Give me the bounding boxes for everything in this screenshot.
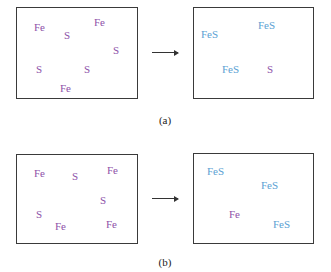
atom-label-fe: Fe	[34, 22, 45, 33]
atom-label-fe: Fe	[229, 209, 240, 220]
atom-label-s: S	[72, 171, 78, 182]
atom-label-fe: Fe	[34, 168, 45, 179]
atom-label-fe: Fe	[107, 165, 118, 176]
atom-label-s: S	[64, 30, 70, 41]
product-label-fes: FeS	[207, 166, 224, 177]
atom-label-s: S	[113, 45, 119, 56]
panel-a-products-box	[193, 7, 314, 99]
panel-a-caption: (a)	[150, 114, 180, 126]
panel-b-caption: (b)	[150, 256, 180, 268]
product-label-fes: FeS	[222, 64, 239, 75]
product-label-fes: FeS	[258, 20, 275, 31]
atom-label-s: S	[36, 64, 42, 75]
panel-a-reaction-arrow	[152, 52, 178, 53]
product-label-fes: FeS	[201, 29, 218, 40]
product-label-fes: FeS	[273, 219, 290, 230]
atom-label-s: S	[36, 209, 42, 220]
atom-label-s: S	[84, 64, 90, 75]
atom-label-fe: Fe	[106, 219, 117, 230]
atom-label-fe: Fe	[60, 83, 71, 94]
atom-label-fe: Fe	[55, 221, 66, 232]
atom-label-s: S	[100, 195, 106, 206]
product-label-fes: FeS	[261, 180, 278, 191]
panel-b-reaction-arrow	[152, 198, 178, 199]
atom-label-s: S	[267, 64, 273, 75]
atom-label-fe: Fe	[94, 17, 105, 28]
